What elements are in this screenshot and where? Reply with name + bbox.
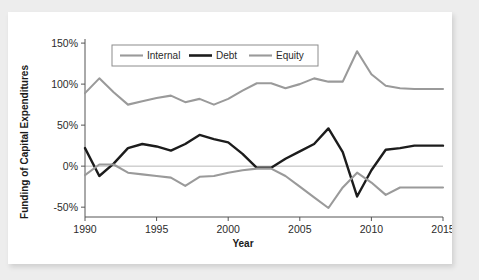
x-tick-label: 2000 bbox=[217, 223, 241, 235]
x-tick-labels: 199019952000200520102015 bbox=[73, 223, 452, 235]
chart-card: Funding of Capital Expenditures Year -50… bbox=[8, 12, 452, 264]
chart-legend: InternalDebtEquity bbox=[112, 45, 318, 66]
series-line-equity bbox=[85, 165, 443, 208]
y-tick-label: 0% bbox=[63, 160, 78, 172]
x-tick-label: 2010 bbox=[360, 223, 384, 235]
x-tick-label: 2015 bbox=[431, 223, 452, 235]
legend-label-internal: Internal bbox=[147, 50, 180, 61]
legend-label-debt: Debt bbox=[216, 50, 237, 61]
legend-label-equity: Equity bbox=[276, 50, 304, 61]
y-tick-labels: -50%0%50%100%150% bbox=[51, 37, 78, 213]
line-chart: Funding of Capital Expenditures Year -50… bbox=[8, 12, 452, 264]
x-tick-label: 2005 bbox=[288, 223, 312, 235]
series-line-debt bbox=[85, 128, 443, 196]
y-tick-label: 150% bbox=[51, 37, 78, 49]
chart-canvas: Funding of Capital Expenditures Year -50… bbox=[8, 12, 452, 264]
y-axis-title-group: Funding of Capital Expenditures bbox=[19, 65, 30, 219]
x-tick-label: 1990 bbox=[73, 223, 97, 235]
x-axis-title-group: Year bbox=[232, 238, 253, 249]
x-axis-title: Year bbox=[232, 238, 253, 249]
y-axis-title: Funding of Capital Expenditures bbox=[19, 65, 30, 219]
page-background: Funding of Capital Expenditures Year -50… bbox=[0, 0, 479, 280]
series-lines bbox=[85, 51, 443, 208]
x-tick-label: 1995 bbox=[145, 223, 169, 235]
y-tick-label: -50% bbox=[53, 201, 78, 213]
y-tick-label: 100% bbox=[51, 78, 78, 90]
y-tick-label: 50% bbox=[57, 119, 78, 131]
